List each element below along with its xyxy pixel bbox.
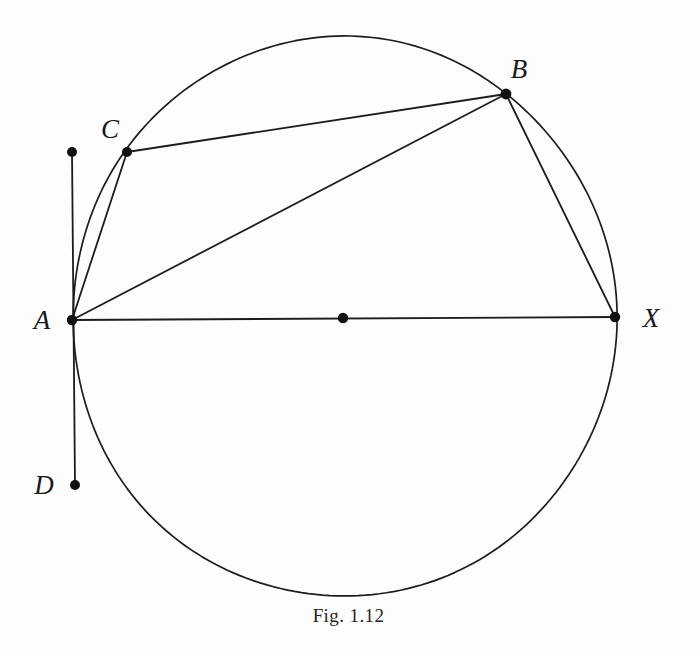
point-label-X: X [643,305,660,332]
point-dot-C [122,147,132,157]
point-dot-X [610,312,620,322]
point-dot-T [67,147,77,157]
point-dot-B [501,89,512,100]
point-dot-D [70,480,80,490]
point-label-A: A [34,307,51,334]
figure-container: A C B X D Fig. 1.12 [0,0,697,649]
point-label-C: C [101,116,119,143]
point-dot-A [67,315,77,325]
point-dot-O [338,313,348,323]
point-label-D: D [34,472,54,499]
figure-caption: Fig. 1.12 [0,605,697,627]
geometry-drawing [0,0,697,649]
segment-layer [72,94,615,485]
point-label-B: B [511,56,528,83]
chord-b-to-x [506,94,615,317]
